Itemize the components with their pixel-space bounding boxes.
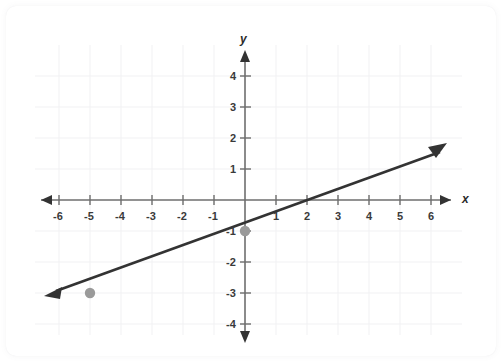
- x-axis: [41, 195, 451, 205]
- xtick-label: 2: [304, 211, 310, 222]
- xtick-label: -6: [53, 211, 63, 222]
- xtick-label: -4: [115, 211, 125, 222]
- y-axis: [240, 50, 251, 343]
- ytick-label: -2: [226, 257, 236, 268]
- graph-page: -6 -5 -4 -3 -2 -1 1 2 3 4 5 6 4 3 2 1 -1…: [0, 0, 502, 362]
- point-second: [85, 288, 95, 298]
- ytick-label: 4: [230, 71, 236, 82]
- ytick-label: -3: [226, 288, 236, 299]
- x-axis-label: x: [462, 193, 469, 205]
- ytick-label: 3: [230, 102, 236, 113]
- grid-lines: [35, 45, 462, 335]
- ytick-label: -4: [226, 319, 236, 330]
- xtick-label: -3: [146, 211, 156, 222]
- ytick-label: 1: [230, 164, 236, 175]
- ytick-label: -1: [226, 226, 236, 237]
- xtick-label: 3: [335, 211, 341, 222]
- coordinate-plane: [0, 0, 502, 362]
- point-y-intercept: [240, 226, 250, 236]
- xtick-label: -5: [84, 211, 94, 222]
- xtick-label: -1: [208, 211, 218, 222]
- y-axis-label: y: [240, 33, 247, 45]
- xtick-label: 4: [366, 211, 372, 222]
- xtick-label: -2: [177, 211, 187, 222]
- xtick-label: 1: [273, 211, 279, 222]
- ytick-label: 2: [230, 133, 236, 144]
- xtick-label: 6: [428, 211, 434, 222]
- xtick-label: 5: [397, 211, 403, 222]
